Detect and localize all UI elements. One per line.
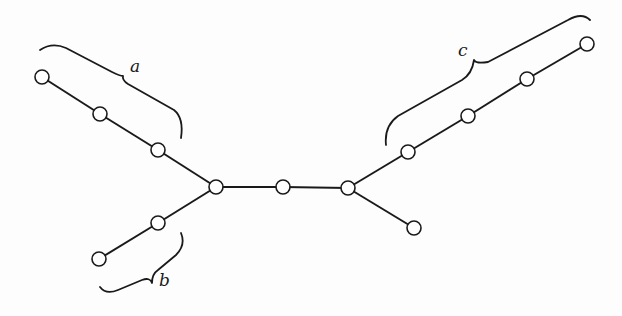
node-n6 (341, 181, 355, 195)
node-n11 (520, 72, 534, 86)
edge (348, 152, 408, 188)
nodes (35, 37, 594, 266)
tree-diagram: a b c (0, 0, 622, 316)
node-n1 (35, 70, 49, 84)
edge (468, 79, 527, 116)
node-n3 (151, 143, 165, 157)
edge (408, 116, 468, 152)
edge (283, 187, 348, 188)
brace-b (100, 233, 183, 292)
edge (348, 188, 414, 228)
node-n10 (461, 109, 475, 123)
node-n4 (209, 180, 223, 194)
edge (99, 223, 158, 259)
node-n12 (580, 37, 594, 51)
brace-a (40, 45, 182, 138)
node-n9 (401, 145, 415, 159)
node-n5 (276, 180, 290, 194)
node-n13 (407, 221, 421, 235)
node-n8 (92, 252, 106, 266)
node-n7 (151, 216, 165, 230)
node-n2 (93, 107, 107, 121)
edge (158, 150, 216, 187)
brace-label-c: c (458, 42, 468, 59)
edge (527, 44, 587, 79)
edge (42, 77, 100, 114)
brace-label-b: b (159, 272, 170, 289)
diagram-canvas (0, 0, 622, 316)
edge (100, 114, 158, 150)
brace-label-a: a (130, 58, 140, 75)
edge (158, 187, 216, 223)
brace-c (386, 16, 590, 145)
